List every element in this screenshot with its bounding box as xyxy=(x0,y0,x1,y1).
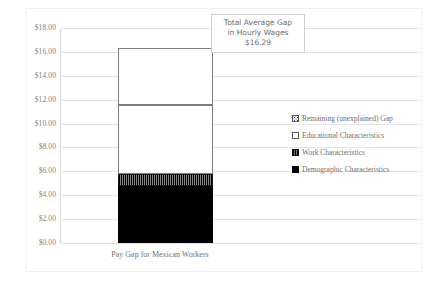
y-axis-tick: $12.00 xyxy=(4,96,56,104)
y-axis-tick: $8.00 xyxy=(4,143,56,151)
y-axis-tick: $10.00 xyxy=(4,120,56,128)
y-axis-tick: $14.00 xyxy=(4,72,56,80)
stacked-bar-chart: $18.00 $16.00 $14.00 $12.00 $10.00 $8.00… xyxy=(0,0,445,281)
legend-label: Educational Characteristics xyxy=(302,131,384,140)
legend-swatch-icon xyxy=(292,132,299,139)
y-axis-tick: $0.00 xyxy=(4,239,56,247)
legend-swatch-icon xyxy=(292,149,299,156)
y-axis-tick: $6.00 xyxy=(4,167,56,175)
y-axis-tick: $18.00 xyxy=(4,24,56,32)
legend-swatch-icon xyxy=(292,115,299,122)
legend-item-demographic-characteristics: Demographic Characteristics xyxy=(292,161,422,178)
bar-segment-educational-characteristics xyxy=(118,105,213,173)
legend-item-educational-characteristics: Educational Characteristics xyxy=(292,127,422,144)
y-axis-tick-labels: $18.00 $16.00 $14.00 $12.00 $10.00 $8.00… xyxy=(0,28,56,243)
bar-segment-work-characteristics xyxy=(118,174,213,187)
gridline xyxy=(60,243,420,244)
bar-segment-demographic-characteristics xyxy=(118,186,213,243)
total-gap-callout: Total Average Gap in Hourly Wages $16.29 xyxy=(211,14,305,53)
legend-label: Demographic Characteristics xyxy=(302,165,389,174)
y-axis-tick: $4.00 xyxy=(4,191,56,199)
bar-segment-remaining-unexplained-gap xyxy=(118,48,213,105)
legend-label: Remaining (unexplained) Gap xyxy=(302,114,393,123)
legend-item-work-characteristics: Work Characteristics xyxy=(292,144,422,161)
gridline xyxy=(60,76,420,77)
gridline xyxy=(60,219,420,220)
legend-label: Work Characteristics xyxy=(302,148,365,157)
legend-item-remaining-unexplained-gap: Remaining (unexplained) Gap xyxy=(292,110,422,127)
y-axis-tick: $16.00 xyxy=(4,48,56,56)
y-axis-line xyxy=(60,28,61,243)
y-axis-tick: $2.00 xyxy=(4,215,56,223)
legend-swatch-icon xyxy=(292,166,299,173)
chart-legend: Remaining (unexplained) Gap Educational … xyxy=(292,110,422,178)
gridline xyxy=(60,100,420,101)
callout-value: $16.29 xyxy=(214,38,302,48)
callout-line-1: Total Average Gap xyxy=(214,18,302,28)
x-axis-category-label: Pay Gap for Mexican Workers xyxy=(60,250,260,260)
callout-line-2: in Hourly Wages xyxy=(214,28,302,38)
gridline xyxy=(60,195,420,196)
